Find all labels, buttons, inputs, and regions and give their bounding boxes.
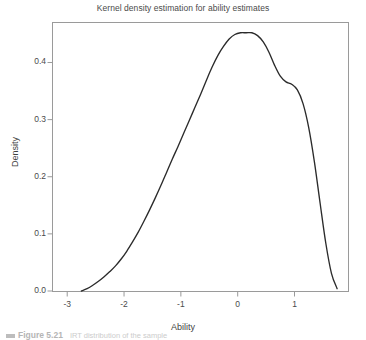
y-axis-title: Density [10, 117, 20, 187]
y-tick-label: 0.1 [14, 228, 46, 238]
caption-label: Figure 5.21 [18, 330, 63, 340]
plot-frame [53, 23, 349, 292]
figure-caption: Figure 5.21IRT distribution of the sampl… [0, 330, 366, 340]
x-tick-label: 1 [280, 299, 310, 309]
kernel-density-figure: Kernel density estimation for ability es… [0, 0, 366, 340]
plot-area [0, 0, 366, 340]
caption-bar-icon [6, 334, 15, 338]
y-axis-ticks [48, 62, 53, 291]
plot-frame-rect [53, 23, 349, 292]
caption-text: IRT distribution of the sample [70, 331, 167, 340]
density-curve [81, 33, 337, 291]
x-tick-label: 0 [223, 299, 253, 309]
x-tick-label: -3 [52, 299, 82, 309]
x-axis-ticks [67, 292, 294, 297]
y-tick-label: 0.4 [14, 56, 46, 66]
x-tick-label: -1 [166, 299, 196, 309]
density-curve-group [81, 33, 337, 291]
x-tick-label: -2 [109, 299, 139, 309]
y-tick-label: 0.0 [14, 285, 46, 295]
